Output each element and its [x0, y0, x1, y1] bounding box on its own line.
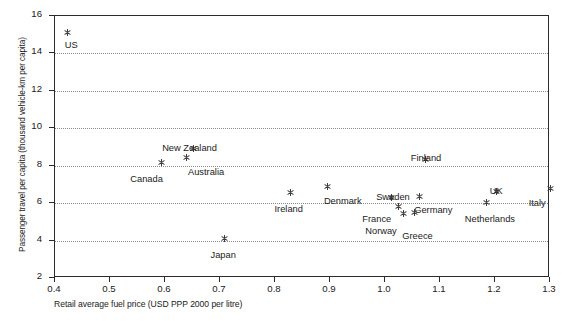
y-tick-mark-16 [49, 15, 54, 16]
x-tick-label-1.2: 1.2 [474, 283, 514, 294]
gridline-y-8 [55, 166, 548, 167]
data-point-marker [400, 210, 407, 217]
x-tick-label-0.8: 0.8 [254, 283, 294, 294]
data-point-label: New Zealand [162, 143, 217, 153]
data-point-label: Greece [402, 231, 433, 241]
y-tick-mark-6 [49, 202, 54, 203]
plot-area [54, 15, 549, 277]
x-tick-mark-0.6 [164, 277, 165, 282]
x-axis-label: Retail average fuel price (USD PPP 2000 … [54, 299, 242, 309]
data-point-marker [158, 159, 165, 166]
scatter-chart-figure: Passenger travel per capita (thousand ve… [0, 0, 576, 321]
x-tick-label-0.7: 0.7 [199, 283, 239, 294]
x-tick-mark-0.8 [274, 277, 275, 282]
y-tick-label-8: 8 [0, 158, 42, 169]
x-tick-label-1.3: 1.3 [529, 283, 569, 294]
x-tick-label-1.0: 1.0 [364, 283, 404, 294]
data-point-marker [416, 193, 423, 200]
x-tick-mark-1.3 [549, 277, 550, 282]
data-point-label: Finland [411, 153, 442, 163]
y-tick-mark-4 [49, 240, 54, 241]
y-tick-mark-14 [49, 52, 54, 53]
data-point-label: Sweden [376, 192, 410, 202]
gridline-y-12 [55, 91, 548, 92]
gridline-y-10 [55, 128, 548, 129]
data-point-label: Italy [529, 198, 546, 208]
data-point-label: Australia [188, 167, 224, 177]
y-tick-label-14: 14 [0, 45, 42, 56]
data-point-marker [64, 29, 71, 36]
x-tick-label-0.6: 0.6 [144, 283, 184, 294]
x-tick-mark-1.1 [439, 277, 440, 282]
x-tick-mark-0.4 [54, 277, 55, 282]
y-tick-label-16: 16 [0, 8, 42, 19]
y-tick-label-12: 12 [0, 83, 42, 94]
data-point-marker [411, 209, 418, 216]
x-tick-label-1.1: 1.1 [419, 283, 459, 294]
x-tick-mark-0.5 [109, 277, 110, 282]
gridline-y-14 [55, 53, 548, 54]
x-tick-label-0.5: 0.5 [89, 283, 129, 294]
x-tick-mark-0.9 [329, 277, 330, 282]
gridline-y-4 [55, 241, 548, 242]
data-point-label: Japan [211, 250, 236, 260]
data-point-label: US [65, 40, 78, 50]
x-tick-mark-0.7 [219, 277, 220, 282]
data-point-marker [547, 185, 554, 192]
y-tick-label-2: 2 [0, 270, 42, 281]
data-point-label: Germany [414, 205, 452, 215]
data-point-label: France [362, 214, 391, 224]
data-point-marker [324, 183, 331, 190]
data-point-label: Denmark [324, 196, 362, 206]
x-tick-mark-1.0 [384, 277, 385, 282]
data-point-marker [221, 235, 228, 242]
x-tick-label-0.4: 0.4 [34, 283, 74, 294]
data-point-marker [183, 154, 190, 161]
y-tick-label-4: 4 [0, 233, 42, 244]
y-tick-label-10: 10 [0, 120, 42, 131]
x-tick-label-0.9: 0.9 [309, 283, 349, 294]
data-point-label: Netherlands [465, 214, 515, 224]
data-point-label: Norway [365, 226, 397, 236]
data-point-marker [287, 189, 294, 196]
data-point-label: Ireland [275, 204, 303, 214]
x-tick-mark-1.2 [494, 277, 495, 282]
data-point-label: Canada [130, 174, 163, 184]
y-tick-label-6: 6 [0, 195, 42, 206]
y-tick-mark-10 [49, 127, 54, 128]
data-point-marker [483, 199, 490, 206]
y-tick-mark-8 [49, 165, 54, 166]
y-tick-mark-12 [49, 90, 54, 91]
data-point-label: UK [490, 186, 503, 196]
